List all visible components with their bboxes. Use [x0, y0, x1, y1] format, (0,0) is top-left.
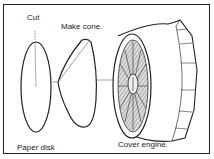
label-cover-engine: Cover engine. [118, 141, 168, 149]
paper-disk-drawing [21, 31, 51, 132]
label-paper-disk: Paper disk [17, 144, 55, 152]
label-make-cone: Make cone. [61, 23, 102, 31]
engine-drawing [113, 20, 197, 141]
label-cut: Cut [27, 14, 39, 22]
paper-cone-drawing [52, 39, 96, 127]
engine-cover-illustration [0, 0, 214, 159]
